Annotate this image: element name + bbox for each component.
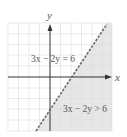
y-axis-label: y	[46, 9, 52, 21]
boundary-equation-label: 3x − 2y = 6	[31, 54, 75, 64]
x-axis-label: x	[114, 71, 120, 83]
inequality-graph: x y 3x − 2y = 6 3x − 2y > 6	[0, 0, 127, 137]
y-axis-arrow-icon	[48, 24, 53, 31]
region-inequality-label: 3x − 2y > 6	[63, 104, 107, 114]
